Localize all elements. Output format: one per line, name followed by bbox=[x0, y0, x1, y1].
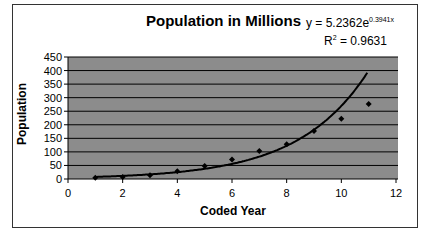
y-tick-label: 300 bbox=[44, 92, 62, 104]
x-tick-label: 4 bbox=[174, 187, 180, 199]
y-tick-label: 0 bbox=[56, 173, 62, 185]
y-tick-label: 400 bbox=[44, 65, 62, 77]
x-tick-label: 8 bbox=[284, 187, 290, 199]
x-tick-label: 2 bbox=[120, 187, 126, 199]
x-tick-label: 0 bbox=[65, 187, 71, 199]
x-tick-label: 10 bbox=[335, 187, 347, 199]
x-tick-label: 12 bbox=[390, 187, 402, 199]
x-tick-label: 6 bbox=[229, 187, 235, 199]
y-tick-label: 200 bbox=[44, 119, 62, 131]
y-tick-label: 50 bbox=[50, 159, 62, 171]
y-tick-label: 250 bbox=[44, 105, 62, 117]
y-tick-label: 350 bbox=[44, 78, 62, 90]
y-tick-label: 450 bbox=[44, 51, 62, 63]
y-tick-label: 150 bbox=[44, 132, 62, 144]
y-tick-label: 100 bbox=[44, 146, 62, 158]
plot-area: 050100150200250300350400450024681012 bbox=[0, 0, 434, 232]
